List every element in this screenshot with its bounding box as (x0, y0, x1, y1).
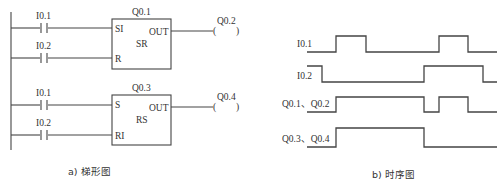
sr-rs-diagram: I0.1 I0.2 Q0.1 SI R OUT SR ( ) Q0.2 (0, 0, 503, 184)
rs-block-rung: I0.1 I0.2 Q0.3 S RI OUT RS ( ) Q0.4 (11, 83, 239, 145)
signal-waveform-i0-2 (307, 66, 497, 82)
pin-label: SI (115, 24, 123, 34)
sr-block-rung: I0.1 I0.2 Q0.1 SI R OUT SR ( ) Q0.2 (11, 7, 239, 69)
contact-no-icon (41, 100, 47, 110)
contact-label: I0.1 (36, 11, 51, 21)
signal-waveform-q0-1-q0-2 (307, 97, 497, 112)
contact-no-icon (41, 53, 47, 63)
pin-label: OUT (149, 27, 169, 37)
block-name: Q0.1 (132, 7, 151, 17)
coil-icon: ) (236, 26, 239, 37)
coil-label: Q0.4 (217, 92, 236, 102)
signal-label: Q0.1、Q0.2 (282, 99, 330, 109)
contact-no-icon (41, 130, 47, 140)
pin-label: R (115, 54, 122, 64)
block-name: Q0.3 (132, 83, 151, 93)
contact-label: I0.2 (36, 41, 51, 51)
timing-diagram: I0.1 I0.2 Q0.1、Q0.2 Q0.3、Q0.4 b) 时序图 (282, 36, 497, 180)
block-type: RS (136, 115, 148, 125)
contact-label: I0.1 (36, 88, 51, 98)
signal-label: I0.1 (297, 39, 312, 49)
pin-label: S (115, 100, 120, 110)
timing-caption: b) 时序图 (372, 169, 415, 180)
contact-label: I0.2 (36, 118, 51, 128)
coil-icon: ( (213, 102, 216, 113)
pin-label: RI (115, 131, 125, 141)
signal-label: Q0.3、Q0.4 (282, 134, 330, 144)
contact-no-icon (41, 23, 47, 33)
signal-waveform-q0-3-q0-4 (307, 128, 497, 147)
ladder-caption: a) 梯形图 (68, 166, 111, 177)
coil-label: Q0.2 (217, 16, 236, 26)
coil-icon: ) (236, 102, 239, 113)
block-type: SR (136, 39, 148, 49)
coil-icon: ( (213, 26, 216, 37)
pin-label: OUT (149, 103, 169, 113)
signal-waveform-i0-1 (307, 36, 497, 52)
ladder-diagram: I0.1 I0.2 Q0.1 SI R OUT SR ( ) Q0.2 (11, 7, 239, 177)
signal-label: I0.2 (297, 71, 312, 81)
